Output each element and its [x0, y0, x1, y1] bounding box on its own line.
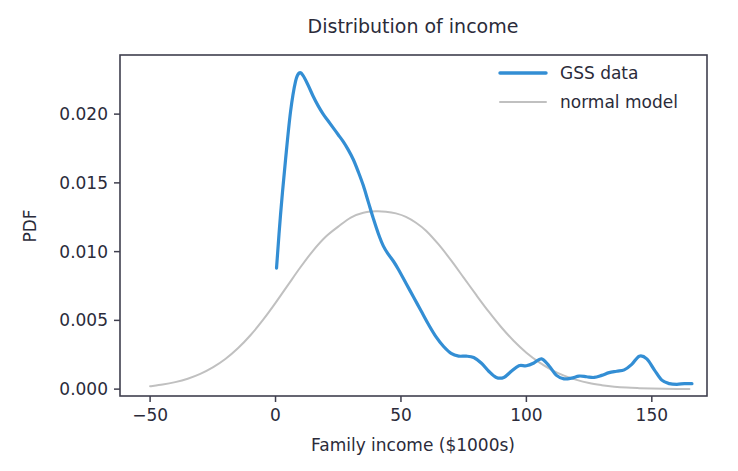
x-tick-label: 0 — [270, 405, 281, 425]
x-axis-label: Family income ($1000s) — [311, 435, 515, 455]
x-tick-label: 150 — [636, 405, 668, 425]
x-axis-ticks: −50050100150 — [132, 396, 668, 425]
y-tick-label: 0.015 — [59, 173, 108, 193]
x-tick-label: 50 — [390, 405, 412, 425]
y-axis-label: PDF — [20, 209, 40, 242]
y-tick-label: 0.000 — [59, 379, 108, 399]
income-distribution-chart: Distribution of income −50050100150 0.00… — [0, 0, 738, 471]
y-tick-label: 0.010 — [59, 242, 108, 262]
x-tick-label: 100 — [510, 405, 542, 425]
legend-label-normal-model: normal model — [560, 92, 678, 112]
y-tick-label: 0.020 — [59, 104, 108, 124]
y-axis-ticks: 0.0000.0050.0100.0150.020 — [59, 104, 120, 399]
chart-title: Distribution of income — [308, 15, 519, 37]
figure-canvas: Distribution of income −50050100150 0.00… — [0, 0, 738, 471]
y-tick-label: 0.005 — [59, 310, 108, 330]
x-tick-label: −50 — [132, 405, 168, 425]
legend-label-gss-data: GSS data — [560, 63, 638, 83]
